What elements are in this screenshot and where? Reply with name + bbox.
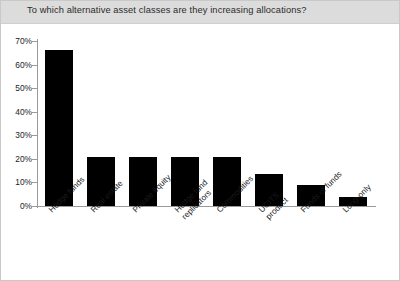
chart-title: To which alternative asset classes are t… xyxy=(27,5,307,15)
y-axis-tick-label: 20% xyxy=(6,155,32,163)
y-axis-tick-label: 50% xyxy=(6,84,32,92)
x-axis-category-labels: Hedge fundsReal estatePrivate equityHedg… xyxy=(38,208,383,281)
y-axis-labels: 70%60%50%40%30%20%10%0% xyxy=(3,1,32,281)
chart-card: To which alternative asset classes are t… xyxy=(0,0,400,281)
y-axis-tick-label: 40% xyxy=(6,108,32,116)
y-axis-tick-label: 0% xyxy=(6,202,32,210)
y-axis-tick-label: 60% xyxy=(6,61,32,69)
y-axis-tick-label: 70% xyxy=(6,37,32,45)
y-axis-tick-label: 10% xyxy=(6,178,32,186)
y-axis-tick-label: 30% xyxy=(6,131,32,139)
y-axis-tick xyxy=(32,206,38,207)
x-axis-line xyxy=(37,206,376,207)
bar xyxy=(45,50,73,206)
